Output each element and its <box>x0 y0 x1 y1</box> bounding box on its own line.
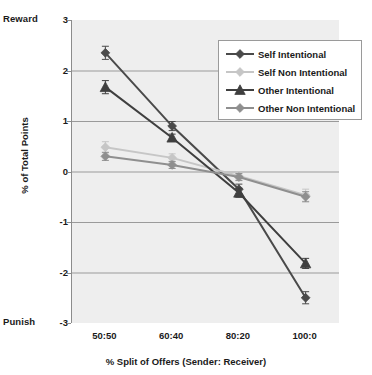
y-axis-title: % of Total Points <box>19 101 30 211</box>
data-point <box>100 82 110 92</box>
y-tick-mark <box>67 172 71 173</box>
y-tick-label: -3 <box>44 318 68 328</box>
y-tick-mark <box>67 323 71 324</box>
chart-figure: Reward Punish % of Total Points 3210-1-2… <box>0 0 372 375</box>
series-4 <box>101 152 310 202</box>
legend-marker-icon <box>225 47 255 61</box>
legend-item-4[interactable]: Other Non Intentional <box>219 99 361 117</box>
y-tick-mark <box>67 273 71 274</box>
y-tick-mark <box>67 20 71 21</box>
legend-item-1[interactable]: Self Intentional <box>219 45 361 63</box>
legend-label: Other Intentional <box>258 85 334 96</box>
legend-label: Other Non Intentional <box>258 103 355 114</box>
legend-marker-icon <box>225 83 255 97</box>
x-tick-label: 50:50 <box>74 330 134 341</box>
y-axis-ticks: 3210-1-2-3 <box>40 0 68 375</box>
y-tick-label: -1 <box>44 217 68 227</box>
y-tick-label: 1 <box>44 116 68 126</box>
legend-label: Self Intentional <box>258 49 326 60</box>
y-tick-mark <box>67 71 71 72</box>
legend-item-3[interactable]: Other Intentional <box>219 81 361 99</box>
y-tick-label: 2 <box>44 66 68 76</box>
y-tick-label: 0 <box>44 167 68 177</box>
x-tick-label: 60:40 <box>141 330 201 341</box>
y-axis-reward-annotation: Reward <box>3 13 38 24</box>
x-axis-title: % Split of Offers (Sender: Receiver) <box>0 356 372 367</box>
chart-legend: Self IntentionalSelf Non IntentionalOthe… <box>218 40 362 120</box>
x-tick-label: 80:20 <box>208 330 268 341</box>
legend-marker-icon <box>225 101 255 115</box>
y-tick-mark <box>67 121 71 122</box>
data-point <box>101 143 110 152</box>
y-tick-mark <box>67 222 71 223</box>
y-tick-label: 3 <box>44 15 68 25</box>
y-axis-punish-annotation: Punish <box>3 316 35 327</box>
legend-item-2[interactable]: Self Non Intentional <box>219 63 361 81</box>
x-tick-label: 100:0 <box>275 330 335 341</box>
y-tick-label: -2 <box>44 268 68 278</box>
data-point <box>301 293 310 302</box>
legend-marker-icon <box>225 65 255 79</box>
series-line <box>105 156 305 196</box>
legend-label: Self Non Intentional <box>258 67 347 78</box>
